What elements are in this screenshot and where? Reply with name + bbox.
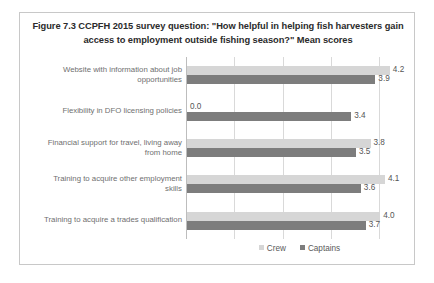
legend-label: Crew [267, 244, 286, 253]
bar-track: 3.4 [186, 112, 413, 121]
bar-track: 0.0 [186, 103, 413, 112]
bar-track: 3.7 [186, 221, 413, 230]
chart-legend: CrewCaptains [186, 244, 413, 253]
bar-crew[interactable] [187, 175, 385, 184]
figure-title: Figure 7.3 CCPFH 2015 survey question: "… [28, 20, 408, 47]
bar-group: 4.03.7 [186, 212, 413, 230]
bar-crew[interactable] [187, 66, 390, 75]
category-label: Website with information about job oppor… [42, 65, 182, 86]
bar-captains[interactable] [187, 221, 366, 230]
bar-group: 3.83.5 [186, 139, 413, 157]
bar-track: 3.9 [186, 75, 413, 84]
bar-captains[interactable] [187, 112, 351, 121]
legend-entry-captains[interactable]: Captains [300, 244, 340, 253]
figure-frame: Figure 7.3 CCPFH 2015 survey question: "… [19, 12, 415, 265]
legend-swatch-icon [300, 245, 305, 250]
category-label: Financial support for travel, living awa… [42, 138, 182, 159]
legend-swatch-icon [259, 245, 264, 250]
bar-group: 4.23.9 [186, 66, 413, 84]
category-label: Training to acquire a trades qualificati… [42, 215, 182, 226]
bar-group: 0.03.4 [186, 103, 413, 121]
bar-captains[interactable] [187, 75, 375, 84]
bar-track: 3.5 [186, 148, 413, 157]
bar-value-label: 3.9 [378, 73, 389, 85]
category-axis-labels: Website with information about job oppor… [42, 57, 182, 239]
bar-value-label: 3.7 [369, 219, 380, 231]
category-label: Training to acquire other employment ski… [42, 174, 182, 195]
plot-area: 4.23.90.03.43.83.54.13.64.03.7 [186, 57, 413, 239]
bar-track: 3.6 [186, 184, 413, 193]
bar-value-label: 3.6 [364, 182, 375, 194]
bar-crew[interactable] [187, 139, 371, 148]
bar-track: 3.8 [186, 139, 413, 148]
bar-track: 4.1 [186, 175, 413, 184]
category-label: Flexibility in DFO licensing policies [42, 106, 182, 117]
bar-value-label: 3.5 [359, 146, 370, 158]
bar-captains[interactable] [187, 148, 356, 157]
bar-crew[interactable] [187, 212, 380, 221]
legend-label: Captains [308, 244, 340, 253]
legend-entry-crew[interactable]: Crew [259, 244, 286, 253]
bar-group: 4.13.6 [186, 175, 413, 193]
bar-value-label: 3.4 [354, 110, 365, 122]
bar-captains[interactable] [187, 184, 361, 193]
